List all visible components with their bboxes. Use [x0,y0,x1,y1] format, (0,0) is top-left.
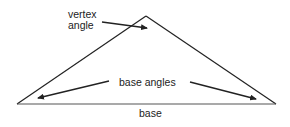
triangle-outline [17,16,276,104]
right-side [146,16,276,104]
left-base-angle-arrow [38,81,109,98]
base-angles-label: base angles [119,77,176,88]
right-base-angle-arrow [190,82,256,99]
vertex-angle-arrow [102,22,147,28]
vertex-angle-label: vertex angle [68,9,97,31]
base-label: base [139,108,162,119]
vertex-angle-label-line2: angle [68,20,97,31]
isosceles-triangle-diagram: vertex angle base angles base [0,0,290,127]
